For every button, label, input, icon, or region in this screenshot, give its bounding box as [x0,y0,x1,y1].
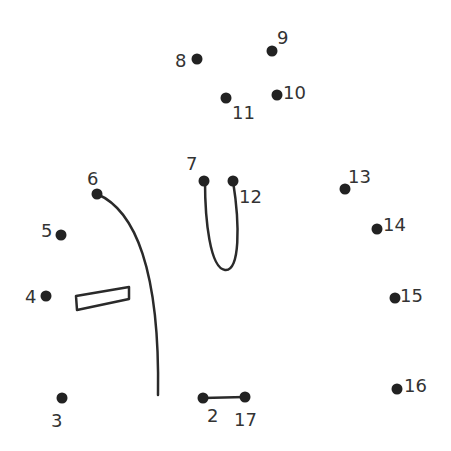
dot-number-label: 11 [232,102,255,123]
dot-marker [372,224,383,235]
dot-marker [41,291,52,302]
dot-marker [92,189,103,200]
dot-marker [392,384,403,395]
dot-marker [192,54,203,65]
dot-number-label: 16 [404,375,427,396]
dot-marker [56,230,67,241]
dot-8: 8 [175,50,203,71]
dot-4: 4 [25,286,52,307]
drawn-strokes [76,181,245,398]
dot-6: 6 [87,168,103,200]
dot-to-dot-canvas: 234567891011121314151617 [0,0,451,451]
dot-14: 14 [372,214,406,235]
dot-12: 12 [228,176,262,208]
dot-number-label: 13 [348,166,371,187]
loop-7-12 [205,181,238,270]
dot-number-label: 17 [234,409,257,430]
dot-marker [221,93,232,104]
dot-number-label: 5 [41,220,52,241]
dot-9: 9 [267,27,289,57]
dot-marker [390,293,401,304]
dot-marker [240,392,251,403]
dot-number-label: 8 [175,50,186,71]
dot-number-label: 12 [239,186,262,207]
dot-number-label: 9 [277,27,288,48]
dot-13: 13 [340,166,371,195]
dot-marker [272,90,283,101]
numbered-dots: 234567891011121314151617 [25,27,427,431]
dot-3: 3 [51,393,68,432]
dot-number-label: 10 [283,82,306,103]
dot-marker [57,393,68,404]
dot-number-label: 2 [207,405,218,426]
rect-shape [76,287,129,310]
dot-16: 16 [392,375,427,396]
dot-11: 11 [221,93,255,124]
dot-number-label: 14 [383,214,406,235]
dot-15: 15 [390,285,423,306]
segment-2-17 [203,397,245,398]
dot-marker [228,176,239,187]
curve-6-down [97,194,158,395]
dot-number-label: 3 [51,410,62,431]
dot-number-label: 6 [87,168,98,189]
dot-10: 10 [272,82,306,103]
dot-number-label: 7 [186,153,197,174]
dot-number-label: 15 [400,285,423,306]
dot-marker [199,176,210,187]
dot-number-label: 4 [25,286,36,307]
dot-7: 7 [186,153,210,187]
dot-5: 5 [41,220,67,241]
dot-marker [267,46,278,57]
dot-marker [198,393,209,404]
